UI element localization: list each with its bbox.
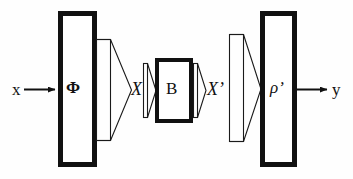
b-block-label: B xyxy=(166,80,177,97)
phi-cone-body xyxy=(97,40,111,141)
block-diagram-canvas: x Φ X B X’ ρ’ y xyxy=(0,0,353,179)
phi-cone-taper xyxy=(111,40,132,141)
b-output-cone-taper xyxy=(198,64,207,118)
rho-cone-body xyxy=(230,35,244,142)
b-input-cone-body xyxy=(144,64,148,118)
b-output-cone xyxy=(194,64,207,118)
rho-block-label: ρ’ xyxy=(270,79,284,96)
b-output-cone-body xyxy=(194,64,198,118)
b-input-cone xyxy=(144,64,157,118)
phi-block-label: Φ xyxy=(66,79,80,96)
phi-output-cone xyxy=(97,40,132,141)
input-label-x: x xyxy=(12,81,21,98)
rho-cone-taper xyxy=(244,35,262,142)
output-label-y: y xyxy=(332,81,341,98)
signal-label-X: X xyxy=(131,80,142,98)
b-input-cone-taper xyxy=(148,64,157,118)
signal-label-X-prime: X’ xyxy=(207,80,224,98)
rho-input-cone xyxy=(230,35,262,142)
